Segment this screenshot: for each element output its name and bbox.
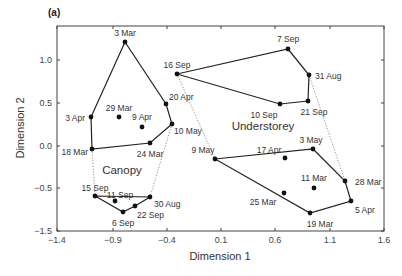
x-tick-label: 1.6 (378, 235, 391, 245)
data-point (123, 40, 128, 45)
group-label: Understorey (232, 120, 295, 132)
point-label: 16 Sep (164, 60, 191, 70)
data-point (121, 210, 126, 215)
plot-frame (57, 26, 384, 231)
point-label: 7 Sep (277, 34, 299, 44)
point-label: 9 Apr (132, 112, 152, 122)
dotted-link (150, 124, 172, 197)
x-tick-label: 0.6 (269, 235, 282, 245)
data-point (278, 102, 283, 107)
point-label: 22 Sep (137, 210, 164, 220)
y-axis-label: Dimension 2 (14, 97, 26, 158)
point-label: 25 Mar (250, 197, 277, 207)
point-label: 3 Apr (65, 113, 85, 123)
data-point (311, 147, 316, 152)
point-label: 15 Sep (82, 183, 109, 193)
data-point (164, 102, 169, 107)
y-tick-label: 0.0 (39, 141, 52, 151)
data-point (308, 211, 313, 216)
x-axis-ticks: −1.4−0.9−0.40.10.61.11.6 (48, 26, 390, 245)
point-label: 10 Sep (251, 110, 278, 120)
point-label: 24 Mar (137, 149, 164, 159)
data-point (175, 72, 180, 77)
data-point (307, 73, 312, 78)
dotted-link (309, 75, 345, 181)
data-point (286, 47, 291, 52)
x-axis-label: Dimension 1 (189, 250, 250, 262)
data-point (343, 179, 348, 184)
group-label: Canopy (102, 164, 142, 176)
point-label: 21 Sep (301, 107, 328, 117)
y-tick-label: −1.5 (34, 226, 52, 236)
y-tick-label: 0.5 (39, 98, 52, 108)
mds-scatter-chart: (a) 3 Mar20 Apr10 May24 Mar18 Mar3 Apr29… (0, 0, 402, 276)
data-point (90, 147, 95, 152)
panel-label: (a) (48, 7, 60, 18)
x-tick-label: 1.1 (324, 235, 337, 245)
data-point (306, 99, 311, 104)
point-label: 30 Aug (154, 199, 181, 209)
point-label: 9 May (191, 145, 215, 155)
x-tick-label: 0.1 (215, 235, 228, 245)
point-label: 28 Mar (355, 177, 382, 187)
x-tick-label: −0.9 (104, 235, 122, 245)
data-point (213, 157, 218, 162)
point-label: 10 May (174, 126, 203, 136)
data-point (93, 194, 98, 199)
x-tick-label: −1.4 (48, 235, 66, 245)
point-label: 3 May (299, 135, 323, 145)
data-point (312, 186, 317, 191)
point-label: 5 Apr (355, 205, 375, 215)
point-label: 3 Mar (114, 28, 136, 38)
point-label: 19 Mar (307, 219, 334, 229)
point-labels: 3 Mar20 Apr10 May24 Mar18 Mar3 Apr29 Mar… (62, 28, 382, 229)
point-label: 6 Sep (112, 218, 134, 228)
x-tick-label: −0.4 (158, 235, 176, 245)
data-point (89, 115, 94, 120)
data-point (117, 115, 122, 120)
data-point (349, 199, 354, 204)
data-point (133, 204, 138, 209)
data-point (148, 141, 153, 146)
point-label: 18 Mar (62, 147, 89, 157)
data-point (148, 195, 153, 200)
y-tick-label: 1.0 (39, 55, 52, 65)
point-label: 11 Sep (107, 190, 134, 200)
data-point (140, 125, 145, 130)
point-label: 11 Mar (301, 173, 327, 183)
data-point (282, 191, 287, 196)
hull-outline (177, 49, 309, 104)
y-tick-label: −0.5 (34, 183, 52, 193)
point-label: 20 Apr (169, 92, 194, 102)
point-label: 31 Aug (315, 71, 342, 81)
hull-outline (91, 42, 172, 149)
data-point (283, 156, 288, 161)
point-label: 29 Mar (106, 103, 133, 113)
point-label: 17 Apr (257, 145, 282, 155)
